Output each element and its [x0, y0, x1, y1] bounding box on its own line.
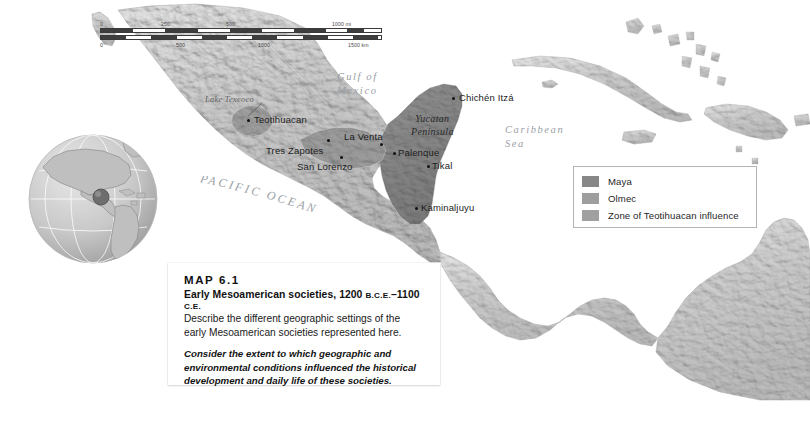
city-label-teotihuacan: Teotihuacan: [254, 114, 307, 125]
scale-km-tick-500: 500: [176, 42, 185, 48]
legend-swatch-maya: [582, 176, 599, 187]
map-caption-box: MAP 6.1 Early Mesoamerican societies, 12…: [168, 263, 440, 385]
map-number: MAP 6.1: [184, 274, 424, 286]
scale-mi-unit: 1000 mi: [332, 21, 351, 27]
legend-swatch-olmec: [582, 193, 599, 204]
map-title: Early Mesoamerican societies, 1200 B.C.E…: [184, 289, 424, 311]
scale-bar-kilometers: [100, 35, 382, 40]
legend-label-olmec: Olmec: [608, 193, 636, 204]
legend-item-olmec: Olmec: [582, 190, 748, 206]
water-label-pacific-ocean: PACIFIC OCEAN: [196, 176, 346, 222]
scale-bar: 0 250 500 1000 mi 0 500 1000 1500 km: [100, 20, 382, 52]
city-label-la-venta: La Venta: [344, 131, 383, 142]
map-figure: 0 250 500 1000 mi 0 500 1000 1500 km Gul…: [0, 0, 810, 421]
scale-km-tick-0: 0: [100, 42, 103, 48]
city-label-chichen-itza: Chichén Itzá: [459, 92, 514, 103]
globe-inset: [27, 133, 159, 265]
scale-mi-tick-250: 250: [161, 21, 170, 27]
map-prompt: Describe the different geographic settin…: [184, 312, 424, 339]
scale-km-unit: 1500 km: [348, 42, 369, 48]
svg-text:PACIFIC OCEAN: PACIFIC OCEAN: [198, 176, 319, 216]
city-label-tikal: Tikal: [432, 160, 452, 171]
scale-mi-tick-500: 500: [226, 21, 235, 27]
city-label-kaminaljuyu: Kaminaljuyu: [421, 202, 474, 213]
city-label-san-lorenzo: San Lorenzo: [297, 161, 353, 172]
map-question: Consider the extent to which geographic …: [184, 347, 424, 387]
scale-bar-miles: [100, 28, 382, 33]
map-title-main: Early Mesoamerican societies, 1200: [184, 289, 365, 300]
scale-km-tick-1000: 1000: [258, 42, 270, 48]
water-label-gulf-of-mexico: Gulf of Mexico: [337, 70, 378, 98]
region-label-yucatan-peninsula: Yucatan Peninsula: [411, 113, 454, 138]
pacific-ocean-text: PACIFIC OCEAN: [198, 176, 319, 216]
water-label-caribbean-sea: Caribbean Sea: [505, 123, 564, 151]
map-title-dash: –1100: [391, 289, 420, 300]
scale-mi-tick-0: 0: [100, 21, 103, 27]
city-label-palenque: Palenque: [398, 147, 439, 158]
legend-label-maya: Maya: [608, 176, 632, 187]
city-label-tres-zapotes: Tres Zapotes: [266, 145, 323, 156]
legend-swatch-teotihuacan: [582, 210, 599, 221]
legend-item-teotihuacan: Zone of Teotihuacan influence: [582, 207, 748, 223]
legend-label-teotihuacan: Zone of Teotihuacan influence: [608, 210, 739, 221]
lake-label-texcoco: Lake Texcoco: [205, 95, 254, 104]
map-legend: Maya Olmec Zone of Teotihuacan influence: [573, 166, 757, 228]
map-title-bce: B.C.E.: [365, 291, 391, 300]
map-title-ce: C.E.: [184, 302, 201, 311]
legend-item-maya: Maya: [582, 173, 748, 189]
